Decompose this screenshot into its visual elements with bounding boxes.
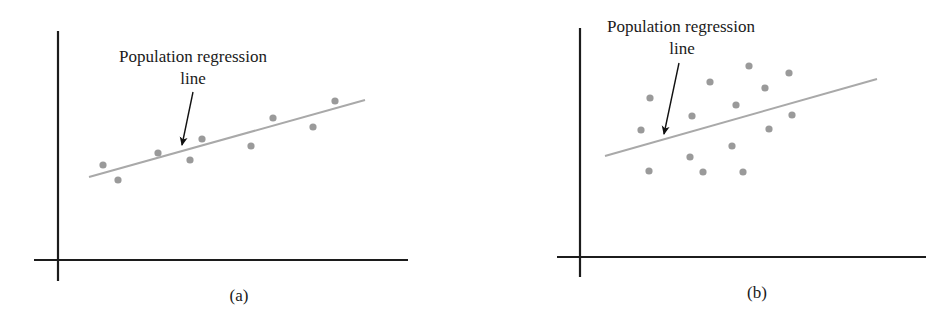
annotation-label-line1: Population regression [119,47,267,66]
arrow-icon [664,63,679,134]
data-point [99,161,106,168]
data-point [761,84,768,91]
data-point [686,153,693,160]
data-point [198,135,205,142]
arrow-icon [182,92,193,145]
panel-a: Population regression line (a) [34,31,408,305]
panel-caption: (a) [230,286,249,305]
panel-caption: (b) [747,283,767,302]
data-point [788,111,795,118]
data-point [646,94,653,101]
data-point [309,123,316,130]
data-points [637,62,795,175]
data-point [645,167,652,174]
annotation-label-line2: line [180,69,206,88]
data-point [688,112,695,119]
data-point [732,101,739,108]
regression-line [605,79,877,156]
data-point [637,126,644,133]
data-point [728,142,735,149]
data-point [331,97,338,104]
data-point [699,168,706,175]
annotation-label-line2: line [669,39,695,58]
data-point [706,78,713,85]
data-point [785,69,792,76]
data-point [247,142,254,149]
data-point [745,62,752,69]
annotation-label-line1: Population regression [607,17,755,36]
regression-figure: Population regression line (a) Populatio… [0,0,952,317]
data-point [154,149,161,156]
regression-line [89,100,365,177]
panel-b: Population regression line (b) [557,17,926,302]
data-point [186,156,193,163]
data-point [739,168,746,175]
data-point [114,176,121,183]
data-point [765,125,772,132]
data-point [269,114,276,121]
